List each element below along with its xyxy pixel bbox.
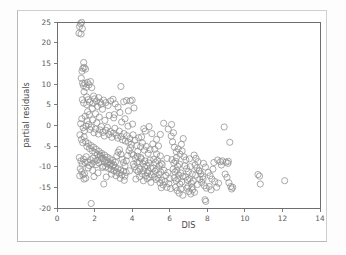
plot-area-background [57, 22, 320, 208]
y-axis-ticks [54, 22, 58, 208]
x-tick-label: 8 [205, 214, 210, 223]
x-axis-title: DIS [182, 220, 196, 230]
x-tick-label: 12 [278, 214, 287, 223]
y-tick-label: 20 [42, 38, 52, 47]
y-tick-label: 0 [46, 121, 51, 130]
y-tick-label: -10 [39, 162, 51, 171]
y-tick-label: 5 [46, 100, 51, 109]
scatter-plot: 02468101214 -20-15-10-50510152025 DIS pa… [0, 0, 346, 255]
x-tick-label: 6 [167, 214, 172, 223]
y-axis-title: partial residuals [21, 82, 31, 148]
x-tick-label: 14 [315, 214, 325, 223]
y-tick-label: 10 [42, 80, 52, 89]
x-axis-ticks [57, 208, 320, 212]
figure-canvas: 02468101214 -20-15-10-50510152025 DIS pa… [0, 0, 346, 255]
x-tick-label: 2 [92, 214, 97, 223]
y-tick-label: 25 [42, 18, 52, 27]
y-tick-label: -20 [39, 204, 51, 213]
x-tick-label: 10 [240, 214, 250, 223]
axes: 02468101214 -20-15-10-50510152025 DIS pa… [21, 18, 325, 230]
y-axis-tick-labels: -20-15-10-50510152025 [39, 18, 51, 213]
y-tick-label: 15 [42, 59, 52, 68]
y-tick-label: -15 [39, 183, 51, 192]
x-tick-label: 0 [55, 214, 60, 223]
y-tick-label: -5 [44, 142, 52, 151]
x-tick-label: 4 [130, 214, 135, 223]
